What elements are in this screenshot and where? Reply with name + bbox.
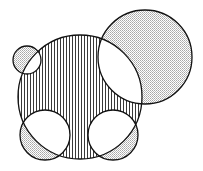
- circles-diagram: [0, 0, 203, 171]
